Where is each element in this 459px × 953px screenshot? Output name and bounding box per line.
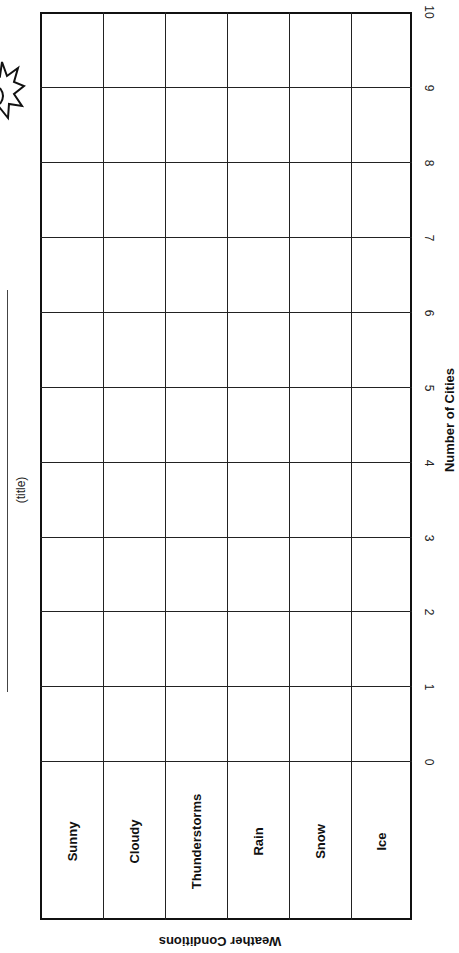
category-snow: Snow: [290, 765, 351, 918]
sun-icon: [0, 60, 26, 132]
category-rain: Rain: [228, 765, 289, 918]
grid-line-3: [40, 537, 412, 538]
y-axis-label: Weather Conditions: [140, 931, 300, 949]
tick-label-7: 7: [421, 230, 437, 246]
x-axis-label: Number of Cities: [442, 360, 458, 480]
category-cloudy: Cloudy: [104, 765, 165, 918]
grid-line-4: [40, 462, 412, 463]
tick-label-5: 5: [421, 380, 437, 396]
grid-line-6: [40, 312, 412, 313]
tick-label-9: 9: [421, 80, 437, 96]
tick-label-4: 4: [421, 455, 437, 471]
tick-label-1: 1: [421, 679, 437, 695]
grid-line-1: [40, 686, 412, 687]
category-sunny: Sunny: [42, 765, 103, 918]
category-label: Thunderstorms: [189, 794, 204, 889]
grid-line-5: [40, 387, 412, 388]
title-placeholder: (title): [14, 465, 30, 515]
grid-line-0: [40, 761, 412, 762]
tick-label-0: 0: [421, 754, 437, 770]
category-label: Sunny: [65, 822, 80, 862]
category-label: Snow: [313, 824, 328, 859]
category-label: Cloudy: [127, 819, 142, 863]
tick-label-8: 8: [421, 155, 437, 171]
category-ice: Ice: [352, 765, 411, 918]
category-label: Rain: [251, 827, 266, 855]
tick-label-3: 3: [421, 530, 437, 546]
tick-label-10: 10: [421, 4, 437, 20]
category-label: Ice: [374, 832, 389, 850]
tick-label-2: 2: [421, 604, 437, 620]
grid-line-8: [40, 162, 412, 163]
tick-label-6: 6: [421, 305, 437, 321]
category-thunderstorms: Thunderstorms: [166, 765, 227, 918]
grid-line-2: [40, 611, 412, 612]
grid-line-7: [40, 237, 412, 238]
grid-line-9: [40, 87, 412, 88]
title-line: [7, 290, 8, 692]
